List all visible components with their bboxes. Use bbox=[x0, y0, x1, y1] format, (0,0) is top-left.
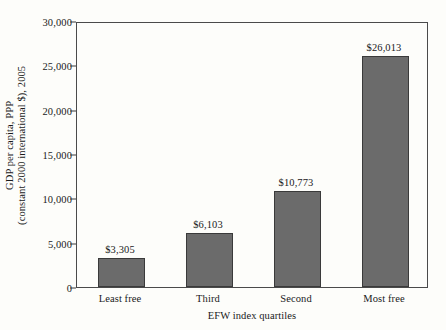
y-axis-tick-labels: 05,00010,00015,00020,00025,00030,000 bbox=[30, 0, 72, 330]
y-axis-tick-label: 10,000 bbox=[43, 194, 72, 205]
y-axis-tick-mark bbox=[70, 243, 76, 244]
bar-value-label: $10,773 bbox=[279, 177, 314, 188]
y-axis-tick-mark bbox=[70, 22, 76, 23]
y-axis-tick-label: 30,000 bbox=[43, 17, 72, 28]
y-axis-tick-label: 5,000 bbox=[48, 238, 72, 249]
bar bbox=[274, 191, 321, 287]
y-axis-title-line2: (constant 2000 international $), 2005 bbox=[17, 65, 29, 224]
x-axis-tick-label: Second bbox=[280, 293, 312, 304]
y-axis-tick-mark bbox=[70, 199, 76, 200]
x-axis-tick-label: Third bbox=[196, 293, 220, 304]
y-axis-title: GDP per capita, PPP (constant 2000 inter… bbox=[0, 0, 34, 290]
y-axis-tick-label: 15,000 bbox=[43, 150, 72, 161]
y-axis-tick-mark bbox=[70, 66, 76, 67]
y-axis-tick-mark bbox=[70, 110, 76, 111]
bar bbox=[186, 233, 233, 287]
y-axis-title-line1: GDP per capita, PPP bbox=[5, 65, 17, 224]
bar bbox=[98, 258, 145, 287]
bar-value-label: $26,013 bbox=[367, 42, 402, 53]
x-axis-tick-label: Most free bbox=[363, 293, 404, 304]
bar bbox=[362, 56, 409, 287]
x-axis-tick-label: Least free bbox=[99, 293, 142, 304]
y-axis-tick-label: 25,000 bbox=[43, 61, 72, 72]
bar-value-label: $6,103 bbox=[193, 219, 222, 230]
y-axis-tick-label: 20,000 bbox=[43, 105, 72, 116]
bar-chart-figure: GDP per capita, PPP (constant 2000 inter… bbox=[0, 0, 446, 330]
bar-value-label: $3,305 bbox=[105, 244, 134, 255]
y-axis-tick-mark bbox=[70, 288, 76, 289]
x-axis-title: EFW index quartiles bbox=[76, 310, 428, 321]
y-axis-tick-mark bbox=[70, 155, 76, 156]
